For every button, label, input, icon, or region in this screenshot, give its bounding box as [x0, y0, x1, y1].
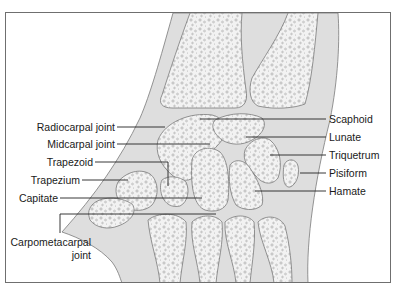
label-carpometacarpal-joint-line2: joint [72, 249, 91, 261]
label-pisiform: Pisiform [329, 167, 367, 179]
label-midcarpal-joint: Midcarpal joint [47, 138, 115, 150]
label-lunate: Lunate [329, 131, 361, 143]
capitate-bone [192, 148, 229, 211]
label-scaphoid: Scaphoid [329, 113, 373, 125]
label-trapezium: Trapezium [31, 174, 80, 186]
label-capitate: Capitate [19, 192, 58, 204]
label-triquetrum: Triquetrum [329, 149, 379, 161]
label-trapezoid: Trapezoid [47, 156, 93, 168]
label-carpometacarpal-joint-line1: Carpometacarpal [10, 236, 91, 248]
label-hamate: Hamate [329, 185, 366, 197]
label-radiocarpal-joint: Radiocarpal joint [37, 121, 115, 133]
